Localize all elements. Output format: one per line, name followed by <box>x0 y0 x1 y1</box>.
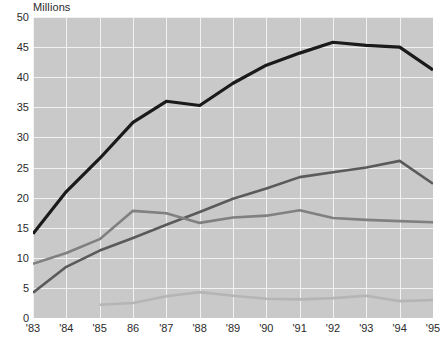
series-line-series-4 <box>100 292 433 305</box>
y-tick-label: 50 <box>3 11 29 23</box>
x-tick-label: '85 <box>92 322 106 334</box>
x-tick-label: '90 <box>259 322 273 334</box>
x-tick-label: '95 <box>426 322 440 334</box>
plot-area <box>33 17 433 318</box>
y-tick-label: 30 <box>3 131 29 143</box>
x-tick-label: '91 <box>292 322 306 334</box>
y-tick-label: 40 <box>3 71 29 83</box>
y-tick-label: 35 <box>3 101 29 113</box>
x-tick-label: '92 <box>326 322 340 334</box>
x-tick-label: '93 <box>359 322 373 334</box>
x-tick-label: '87 <box>159 322 173 334</box>
x-axis-tick-labels: '83'84'8586'87'88'89'90'91'92'93'94'95 <box>33 322 433 342</box>
x-tick-label: 86 <box>127 322 139 334</box>
series-line-series-1 <box>33 42 433 233</box>
x-tick-label: '83 <box>26 322 40 334</box>
series-layer <box>33 17 433 318</box>
y-tick-label: 5 <box>3 282 29 294</box>
x-tick-label: '89 <box>226 322 240 334</box>
y-tick-label: 20 <box>3 192 29 204</box>
y-tick-label: 15 <box>3 222 29 234</box>
series-line-series-2 <box>33 161 433 293</box>
x-tick-label: '84 <box>59 322 73 334</box>
y-tick-label: 45 <box>3 41 29 53</box>
y-tick-label: 10 <box>3 252 29 264</box>
y-tick-label: 25 <box>3 162 29 174</box>
y-axis-unit-label: Millions <box>33 1 70 13</box>
series-line-series-3 <box>33 210 433 264</box>
x-tick-label: '88 <box>192 322 206 334</box>
y-axis-tick-labels: 05101520253035404550 <box>0 0 29 342</box>
x-tick-label: '94 <box>392 322 406 334</box>
